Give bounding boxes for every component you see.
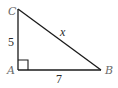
side-label-ca: 5 <box>8 35 14 49</box>
vertex-label-b: B <box>104 64 113 77</box>
vertex-label-a: A <box>6 64 15 77</box>
side-label-cb: x <box>59 25 66 39</box>
side-cb-hypotenuse <box>18 9 101 70</box>
vertex-label-c: C <box>8 5 17 18</box>
side-label-ab: 7 <box>56 72 62 86</box>
triangle-diagram: C A B 5 7 x <box>0 0 118 88</box>
right-angle-marker <box>18 60 28 70</box>
